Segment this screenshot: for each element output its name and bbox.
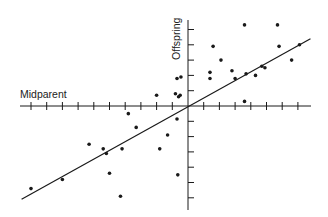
axis-ticks xyxy=(31,30,298,198)
data-point xyxy=(290,58,294,62)
data-point xyxy=(263,66,267,70)
data-point xyxy=(178,93,182,97)
x-axis-label: Midparent xyxy=(20,88,67,100)
data-point xyxy=(29,187,33,191)
data-point xyxy=(158,147,162,151)
data-point xyxy=(120,147,124,151)
data-point xyxy=(176,173,180,177)
data-point xyxy=(298,43,302,47)
data-point xyxy=(277,45,281,49)
data-point xyxy=(254,74,258,78)
y-axis-label: Offspring xyxy=(170,17,182,60)
data-point xyxy=(127,112,131,116)
data-point xyxy=(174,92,178,96)
data-point xyxy=(230,69,234,73)
data-point xyxy=(134,126,138,130)
data-point xyxy=(61,178,65,182)
data-point xyxy=(276,23,280,27)
data-point xyxy=(166,133,170,137)
data-point xyxy=(175,77,179,81)
data-point xyxy=(244,72,248,76)
data-point xyxy=(105,152,109,156)
data-point xyxy=(179,75,183,79)
data-point xyxy=(87,142,91,146)
data-point xyxy=(219,58,223,62)
axes xyxy=(20,20,311,210)
data-point xyxy=(260,64,264,68)
data-point xyxy=(175,117,179,121)
data-point xyxy=(108,172,112,176)
data-point xyxy=(208,71,212,75)
scatter-chart: Midparent Offspring xyxy=(0,0,328,217)
data-point xyxy=(243,100,247,104)
data-point xyxy=(101,147,105,151)
data-point xyxy=(211,45,215,49)
data-point xyxy=(155,93,159,97)
data-point xyxy=(243,23,247,27)
data-point xyxy=(208,77,212,81)
regression-line xyxy=(22,39,311,200)
data-point xyxy=(233,77,237,81)
data-point xyxy=(119,194,123,198)
